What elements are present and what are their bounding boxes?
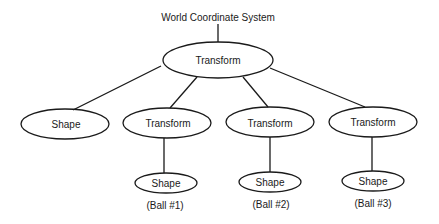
edge-root-transform-3 [270,68,365,107]
root-transform-label: Transform [195,55,240,66]
ball-3-shape-label: Shape [359,176,388,187]
edge-root-transform-2 [243,77,268,107]
ball-1-caption: (Ball #1) [146,200,183,211]
transform-3-label: Transform [350,117,395,128]
ball-2-shape-label: Shape [256,177,285,188]
diagram-title: World Coordinate System [161,12,275,23]
shape-left-label: Shape [52,119,81,130]
edge-root-shape [73,66,161,110]
transform-1-label: Transform [145,118,190,129]
edge-root-transform-1 [170,77,197,108]
scene-graph-diagram [0,0,439,224]
ball-1-shape-label: Shape [152,178,181,189]
transform-2-label: Transform [247,118,292,129]
ball-3-caption: (Ball #3) [354,198,391,209]
ball-2-caption: (Ball #2) [252,199,289,210]
